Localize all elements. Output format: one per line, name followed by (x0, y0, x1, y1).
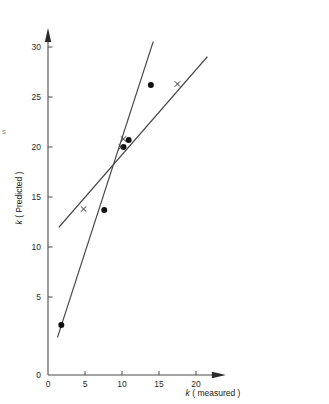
x-tick-label: 5 (83, 379, 88, 389)
data-point-cross (81, 206, 86, 211)
scatter-plot-svg: 05101520051015202530 k ( measured ) k ( … (0, 0, 329, 404)
x-tick-label: 15 (154, 379, 164, 389)
data-point-circle (58, 322, 64, 328)
x-axis-arrowhead (212, 372, 226, 378)
data-point-circle (126, 137, 132, 143)
data-point-circle (148, 82, 154, 88)
axes-group (45, 28, 226, 378)
y-tick-label: 10 (32, 242, 42, 252)
x-axis-title: k ( measured ) (186, 388, 241, 398)
data-point-cross (175, 81, 180, 86)
y-tick-label: 20 (32, 142, 42, 152)
y-axis-arrowhead (45, 28, 51, 42)
y-tick-label: 30 (32, 42, 42, 52)
y-tick-label: 0 (36, 370, 41, 380)
y-tick-label: 15 (32, 192, 42, 202)
shallow-fit-line (59, 57, 207, 227)
chart-figure: 05101520051015202530 k ( measured ) k ( … (0, 0, 329, 404)
y-tick-label: 5 (36, 292, 41, 302)
y-tick-label: 25 (32, 92, 42, 102)
page-edge-artifact: s (2, 127, 6, 136)
data-point-circle (101, 207, 107, 213)
x-tick-label: 10 (117, 379, 127, 389)
y-axis-title: k ( Predicted ) (14, 171, 24, 224)
steep-fit-line (58, 42, 153, 337)
x-tick-label: 0 (46, 379, 51, 389)
ticks-group (48, 47, 196, 375)
data-points-group (58, 81, 180, 328)
fit-lines-group (58, 42, 207, 337)
tick-labels-group: 05101520051015202530 (32, 42, 201, 389)
